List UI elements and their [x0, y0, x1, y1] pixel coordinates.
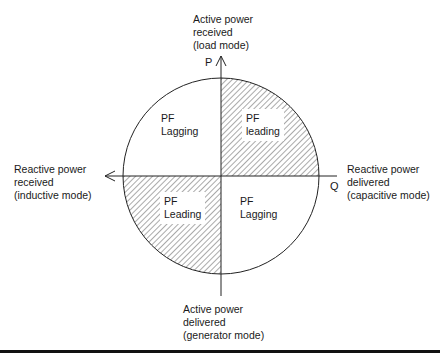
quadrant-top-left-label: PF Lagging [161, 112, 198, 138]
p-axis-symbol: P [205, 56, 212, 68]
bottom-rule [0, 350, 440, 353]
top-axis-label: Active power received (load mode) [193, 13, 253, 52]
label-line: leading [246, 125, 280, 138]
label-line: delivered [183, 316, 264, 329]
label-line: PF [240, 195, 277, 208]
label-line: Active power [193, 13, 253, 26]
quadrant-bottom-right-label: PF Lagging [240, 195, 277, 221]
label-line: Leading [164, 208, 201, 221]
label-line: Active power [183, 303, 264, 316]
label-line: Reactive power [14, 163, 92, 176]
label-line: PF [164, 195, 201, 208]
label-line: PF [246, 112, 280, 125]
label-line: (capacitive mode) [347, 189, 430, 202]
hatch-bottom-left [123, 176, 221, 274]
label-line: (load mode) [193, 39, 253, 52]
label-line: (generator mode) [183, 329, 264, 342]
label-line: received [193, 26, 253, 39]
quadrant-bottom-left-label: PF Leading [160, 192, 205, 224]
label-line: (inductive mode) [14, 189, 92, 202]
quadrant-top-right-label: PF leading [242, 109, 284, 141]
label-line: delivered [347, 176, 430, 189]
label-line: Lagging [161, 125, 198, 138]
left-axis-label: Reactive power received (inductive mode) [14, 163, 92, 202]
label-line: Reactive power [347, 163, 430, 176]
bottom-axis-label: Active power delivered (generator mode) [183, 303, 264, 342]
label-line: received [14, 176, 92, 189]
right-axis-label: Reactive power delivered (capacitive mod… [347, 163, 430, 202]
label-line: PF [161, 112, 198, 125]
label-line: Lagging [240, 208, 277, 221]
q-axis-symbol: Q [330, 180, 339, 192]
